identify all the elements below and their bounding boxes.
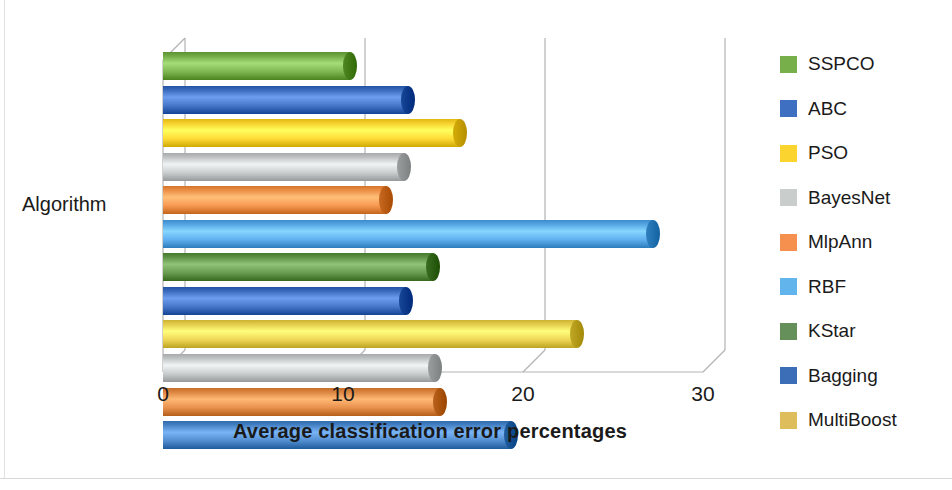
frame-bottom-rule xyxy=(0,478,952,479)
bar-abc xyxy=(163,86,415,114)
bar-body xyxy=(163,253,433,281)
bar-mlpann xyxy=(163,388,447,416)
bar-end-cap xyxy=(399,287,413,315)
legend-label: ABC xyxy=(808,98,847,120)
bar-pso xyxy=(163,119,467,147)
x-tick-label-0: 0 xyxy=(133,382,193,406)
bar-end-cap xyxy=(426,253,440,281)
legend-label: KStar xyxy=(808,320,856,342)
legend-swatch-icon xyxy=(780,412,797,429)
bar-multiboost xyxy=(163,320,584,348)
y-axis-label: Algorithm xyxy=(22,193,106,216)
legend-label: MultiBoost xyxy=(808,409,897,431)
legend-item-bagging[interactable]: Bagging xyxy=(780,354,952,399)
legend-label: Bagging xyxy=(808,365,878,387)
bar-chart: 0 10 20 30 Average classification error … xyxy=(0,0,952,490)
x-tick-label-20: 20 xyxy=(493,382,553,406)
bar-bagging xyxy=(163,287,413,315)
legend-swatch-icon xyxy=(780,189,797,206)
legend-swatch-icon xyxy=(780,367,797,384)
x-tick-label-30: 30 xyxy=(673,382,733,406)
bar-body xyxy=(163,153,404,181)
bar-body xyxy=(163,52,350,80)
bar-kstar xyxy=(163,253,440,281)
bar-mlpann xyxy=(163,186,393,214)
bar-end-cap xyxy=(343,52,357,80)
bar-body xyxy=(163,354,435,382)
legend-label: SSPCO xyxy=(808,53,875,75)
legend-label: RBF xyxy=(808,276,846,298)
legend-swatch-icon xyxy=(780,145,797,162)
plot-area: 0 10 20 30 Average classification error … xyxy=(0,0,770,490)
x-tick-label-10: 10 xyxy=(313,382,373,406)
bar-sspco xyxy=(163,52,357,80)
legend-item-bayesnet[interactable]: BayesNet xyxy=(780,176,952,221)
bar-body xyxy=(163,119,460,147)
legend-label: MlpAnn xyxy=(808,231,872,253)
legend-item-abc[interactable]: ABC xyxy=(780,87,952,132)
x-axis-title: Average classification error percentages xyxy=(180,420,680,443)
legend-item-mlpann[interactable]: MlpAnn xyxy=(780,220,952,265)
bar-body xyxy=(163,320,577,348)
chart-legend: SSPCOABCPSOBayesNetMlpAnnRBFKStarBagging… xyxy=(780,42,952,443)
bar-body xyxy=(163,287,406,315)
legend-item-pso[interactable]: PSO xyxy=(780,131,952,176)
bar-end-cap xyxy=(379,186,393,214)
bar-end-cap xyxy=(646,220,660,248)
bar-series xyxy=(163,52,723,354)
legend-swatch-icon xyxy=(780,278,797,295)
bar-body xyxy=(163,220,653,248)
legend-label: PSO xyxy=(808,142,848,164)
bar-body xyxy=(163,186,386,214)
legend-item-sspco[interactable]: SSPCO xyxy=(780,42,952,87)
bar-end-cap xyxy=(428,354,442,382)
legend-item-multiboost[interactable]: MultiBoost xyxy=(780,398,952,443)
bar-bayesnet xyxy=(163,153,411,181)
bar-end-cap xyxy=(570,320,584,348)
bar-rbf xyxy=(163,220,660,248)
legend-item-rbf[interactable]: RBF xyxy=(780,265,952,310)
legend-item-kstar[interactable]: KStar xyxy=(780,309,952,354)
bar-body xyxy=(163,388,440,416)
legend-swatch-icon xyxy=(780,100,797,117)
frame-left-rule xyxy=(4,0,5,478)
bar-body xyxy=(163,86,408,114)
legend-swatch-icon xyxy=(780,56,797,73)
bar-end-cap xyxy=(397,153,411,181)
legend-label: BayesNet xyxy=(808,187,890,209)
bar-bayesnet xyxy=(163,354,442,382)
bar-end-cap xyxy=(453,119,467,147)
legend-swatch-icon xyxy=(780,234,797,251)
bar-end-cap xyxy=(401,86,415,114)
legend-swatch-icon xyxy=(780,323,797,340)
